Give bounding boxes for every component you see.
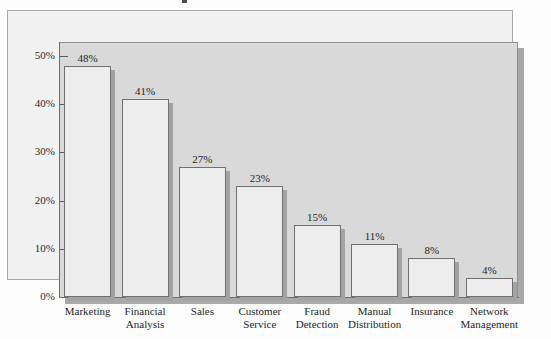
bar-value-label: 4% — [459, 264, 519, 276]
x-axis-category-label-line: Distribution — [330, 318, 420, 331]
cropped-title-fragment — [182, 0, 187, 3]
bar[interactable] — [64, 66, 111, 297]
bar-value-label: 27% — [172, 153, 232, 165]
bar-chart: 0%10%20%30%40%50% 48%41%27%23%15%11%8%4%… — [0, 0, 551, 339]
y-axis-tick-label-text: 40% — [9, 98, 55, 109]
bar-value-label: 15% — [287, 211, 347, 223]
bar-value-label: 23% — [230, 172, 290, 184]
bar[interactable] — [466, 278, 513, 297]
y-axis-tick-label-text: 10% — [9, 243, 55, 254]
y-axis-tick-label-text: 30% — [9, 146, 55, 157]
y-axis-line — [59, 42, 60, 298]
x-axis-category-label-line: Management — [444, 318, 534, 331]
y-axis-tick-label-text: 20% — [9, 195, 55, 206]
bar[interactable] — [122, 99, 169, 297]
bar[interactable] — [179, 167, 226, 297]
y-axis-tick-label: 50% — [3, 50, 55, 61]
y-axis-tick-label: 0% — [3, 291, 55, 302]
y-axis-tick-label-text: 0% — [9, 291, 55, 302]
bar-value-label: 11% — [345, 230, 405, 242]
bar-value-label: 41% — [115, 85, 175, 97]
y-axis-tick-label-text: 50% — [9, 50, 55, 61]
bar[interactable] — [351, 244, 398, 297]
x-axis-category-label: NetworkManagement — [444, 305, 534, 331]
x-axis-category-label-line: Analysis — [100, 318, 190, 331]
bar[interactable] — [408, 258, 455, 297]
bar[interactable] — [236, 186, 283, 297]
bar-value-label: 48% — [58, 52, 118, 64]
y-axis-tick-label: 30% — [3, 146, 55, 157]
y-axis-tick-label: 20% — [3, 195, 55, 206]
x-axis-category-label-line: Network — [444, 305, 534, 318]
y-axis-tick-label: 40% — [3, 98, 55, 109]
bar-value-label: 8% — [402, 244, 462, 256]
bar[interactable] — [294, 225, 341, 297]
y-axis-tick-label: 10% — [3, 243, 55, 254]
